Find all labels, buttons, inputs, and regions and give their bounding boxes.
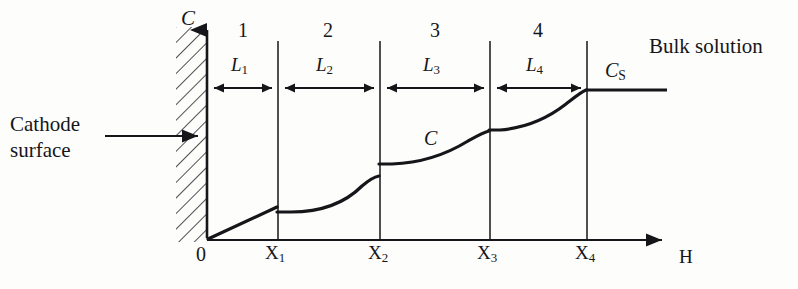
boundary-tick-x1-main: X <box>265 242 279 263</box>
boundary-tick-x4-main: X <box>575 242 589 263</box>
boundary-tick-x1: X1 <box>265 243 285 265</box>
concentration-profile-curve <box>208 90 586 239</box>
saturation-concentration-main: C <box>605 59 618 81</box>
cathode-hatch-block <box>176 27 207 242</box>
boundary-tick-x3-main: X <box>477 242 491 263</box>
boundary-tick-x3: X3 <box>477 243 497 265</box>
thickness-label-l2: L2 <box>316 55 333 77</box>
thickness-label-l2-main: L <box>316 54 327 75</box>
boundary-tick-x2: X2 <box>368 243 388 265</box>
thickness-label-l3-main: L <box>423 54 434 75</box>
thickness-label-l4: L4 <box>526 55 543 77</box>
origin-label: 0 <box>196 244 206 264</box>
thickness-label-l4-main: L <box>526 54 537 75</box>
boundary-tick-x4: X4 <box>575 243 595 265</box>
thickness-label-l4-sub: 4 <box>537 62 543 77</box>
boundary-tick-x3-sub: 3 <box>491 250 497 265</box>
thickness-label-l1-main: L <box>231 54 242 75</box>
layer-index-2: 2 <box>323 20 333 40</box>
boundary-tick-x1-sub: 1 <box>279 250 285 265</box>
bulk-solution-label: Bulk solution <box>649 36 763 57</box>
cathode-surface-label-line1: Cathode <box>10 114 80 135</box>
thickness-label-l2-sub: 2 <box>327 62 333 77</box>
boundary-tick-x2-sub: 2 <box>382 250 388 265</box>
boundary-tick-x4-sub: 4 <box>589 250 595 265</box>
y-axis-label: C <box>181 8 195 29</box>
thickness-label-l3-sub: 3 <box>434 62 440 77</box>
layer-index-1: 1 <box>238 20 248 40</box>
curve-label-c: C <box>424 128 437 148</box>
cathode-surface-label-line2: surface <box>10 140 71 161</box>
thickness-label-l1: L1 <box>231 55 248 77</box>
x-axis-label: H <box>679 247 693 266</box>
boundary-tick-x2-main: X <box>368 242 382 263</box>
thickness-label-l3: L3 <box>423 55 440 77</box>
thickness-label-l1-sub: 1 <box>242 62 248 77</box>
layer-index-4: 4 <box>533 20 543 40</box>
saturation-concentration-sub: S <box>618 68 626 83</box>
diffusion-layer-diagram: C H 0 1 2 3 4 L1 L2 L3 L4 X1 X2 X3 X4 CS… <box>0 0 798 289</box>
saturation-concentration-label: CS <box>605 60 626 83</box>
layer-index-3: 3 <box>430 20 440 40</box>
